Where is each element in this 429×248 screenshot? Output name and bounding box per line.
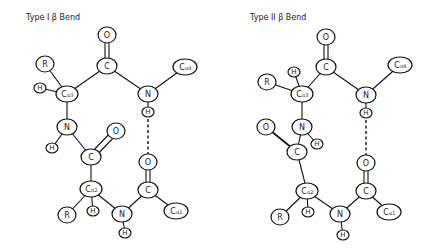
svg-text:H: H	[49, 144, 54, 152]
svg-text:C: C	[88, 153, 94, 162]
atom-c-alpha4: Cα4	[388, 57, 412, 73]
svg-text:R: R	[64, 211, 70, 220]
svg-text:O: O	[263, 123, 269, 132]
atom-c-alpha3: Cα3	[291, 86, 313, 102]
svg-text:R: R	[42, 60, 48, 69]
svg-text:N: N	[145, 90, 151, 99]
atom-h-ca3: H	[34, 83, 46, 93]
svg-text:H: H	[90, 207, 95, 215]
atom-h-ca2: H	[302, 207, 314, 217]
svg-text:H: H	[340, 231, 345, 239]
atom-h-n-top: H	[360, 108, 372, 118]
svg-text:R: R	[264, 78, 270, 87]
atom-r-top: R	[258, 74, 276, 90]
atom-c-top: C	[316, 59, 336, 75]
atom-o-top: O	[317, 29, 335, 45]
atom-n-bottom: N	[330, 206, 350, 222]
atom-h-ca3: H	[288, 67, 300, 77]
svg-text:C: C	[294, 148, 300, 157]
svg-text:α2: α2	[91, 187, 97, 193]
svg-text:H: H	[305, 208, 310, 216]
svg-text:C: C	[104, 62, 110, 71]
svg-text:H: H	[363, 109, 368, 117]
atom-o-bottom: O	[139, 154, 157, 170]
svg-text:H: H	[314, 140, 319, 148]
atom-o-mid: O	[107, 123, 125, 139]
atom-h-n-bottom: H	[337, 230, 349, 240]
atom-h-n-top: H	[142, 107, 154, 117]
svg-text:O: O	[363, 159, 369, 168]
atom-n-bottom: N	[112, 206, 132, 222]
type-i-beta-bend: Type I β Bend	[25, 13, 197, 238]
svg-text:H: H	[291, 68, 296, 76]
atom-r-bottom: R	[58, 207, 76, 223]
svg-text:R: R	[277, 213, 283, 222]
svg-text:α2: α2	[307, 189, 313, 195]
type-ii-beta-bend: Type II β Bend O C	[249, 13, 412, 240]
atom-n-mid: N	[57, 119, 77, 135]
atom-n-top: N	[138, 86, 158, 102]
atom-c-alpha2: Cα2	[296, 183, 318, 199]
atom-h-n-mid: H	[46, 143, 58, 153]
atom-h-n-mid: H	[311, 139, 323, 149]
svg-text:N: N	[337, 210, 343, 219]
atom-c-bottom: C	[356, 183, 376, 199]
svg-text:H: H	[122, 229, 127, 237]
svg-text:H: H	[37, 84, 42, 92]
atom-n-top: N	[356, 87, 376, 103]
atom-c-mid: C	[81, 149, 101, 165]
atom-r-bottom: R	[271, 209, 289, 225]
svg-text:α3: α3	[67, 92, 73, 98]
svg-text:N: N	[64, 123, 70, 132]
svg-text:N: N	[299, 123, 305, 132]
svg-text:α4: α4	[185, 65, 191, 71]
svg-text:O: O	[145, 158, 151, 167]
atom-h-ca2: H	[87, 206, 99, 216]
type-ii-title: Type II β Bend	[249, 13, 306, 22]
svg-text:O: O	[323, 33, 329, 42]
atom-n-mid: N	[292, 119, 312, 135]
beta-bend-diagram: Type I β Bend	[0, 0, 429, 248]
svg-text:O: O	[113, 127, 119, 136]
svg-text:N: N	[119, 210, 125, 219]
svg-text:H: H	[145, 108, 150, 116]
svg-text:C: C	[363, 187, 369, 196]
atom-c-mid: C	[287, 144, 307, 160]
atom-c-bottom: C	[138, 182, 158, 198]
atom-c-alpha4: Cα4	[173, 59, 197, 75]
svg-text:N: N	[363, 91, 369, 100]
atom-c-top: C	[97, 58, 117, 74]
atom-h-n-bottom: H	[119, 228, 131, 238]
type-i-title: Type I β Bend	[25, 13, 80, 22]
atom-c-alpha1: Cα1	[164, 203, 188, 219]
atom-c-alpha3: Cα3	[56, 86, 78, 102]
atom-o-top: O	[98, 27, 116, 43]
svg-text:O: O	[104, 31, 110, 40]
atom-o-mid: O	[257, 119, 275, 135]
atom-r-top: R	[36, 56, 54, 72]
svg-text:α1: α1	[389, 210, 395, 216]
svg-text:α4: α4	[400, 63, 406, 69]
atom-c-alpha2: Cα2	[80, 181, 102, 197]
svg-text:C: C	[323, 63, 329, 72]
svg-text:C: C	[145, 186, 151, 195]
atom-c-alpha1: Cα1	[377, 204, 401, 220]
svg-text:α1: α1	[176, 209, 182, 215]
atom-o-bottom: O	[357, 155, 375, 171]
svg-text:α3: α3	[302, 92, 308, 98]
